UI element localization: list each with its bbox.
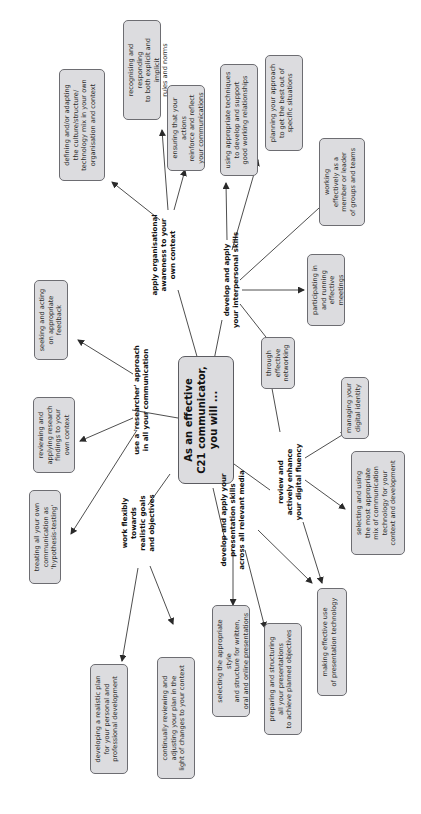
leaf-effective-networking: through effective networking	[261, 337, 295, 389]
leaf-working-relationships: using appropriate techniques to develop …	[220, 64, 258, 176]
leaf-planning-approach: planning your approach to get the best o…	[265, 55, 303, 151]
leaf-communication-technology-mix: selecting and using the most appropriate…	[351, 451, 405, 555]
leaf-preparing-presentations: preparing and structuring all your prese…	[264, 623, 302, 735]
branch-interpersonal-skills: develop and apply your interpersonal ski…	[223, 225, 241, 335]
leaf-style-and-structure: selecting the appropriate style and stru…	[212, 605, 250, 717]
branch-organisational-awareness: apply organisational awareness to your o…	[151, 200, 178, 310]
leaf-ensuring-actions-reflect: ensuring that your actions reinforce and…	[167, 85, 205, 171]
leaf-realistic-plan: developing a realistic plan for your per…	[90, 664, 128, 774]
leaf-adjusting-plan: continually reviewing and adjusting your…	[157, 657, 195, 779]
branch-digital-fluency: review and actively enhance your digital…	[277, 432, 304, 532]
branch-realistic-goals: work flexibly towards realistic goals an…	[121, 483, 157, 563]
leaf-presentation-technology: making effective use of presentation tec…	[317, 588, 347, 696]
branch-presentation-skills: develop and apply your presentation skil…	[220, 465, 247, 575]
leaf-hypothesis-testing: treating all your own communication as '…	[29, 490, 61, 584]
leaf-effective-meetings: participating in and running effective m…	[307, 254, 345, 326]
leaf-recognising-rules-norms: recognising and responding to both expli…	[123, 20, 161, 120]
leaf-research-findings: reviewing and applying research findings…	[33, 397, 75, 473]
leaf-digital-identity: managing your digital identity	[341, 377, 369, 439]
leaf-defining-culture-structure: defining and/or adapting the culture/str…	[59, 69, 105, 181]
leaf-appropriate-feedback: seeking and acting on appropriate feedba…	[34, 280, 68, 360]
branch-researcher-approach: use a 'researcher' approach in all your …	[133, 335, 151, 465]
leaf-groups-and-teams: working effectively as a member or leade…	[319, 138, 365, 226]
